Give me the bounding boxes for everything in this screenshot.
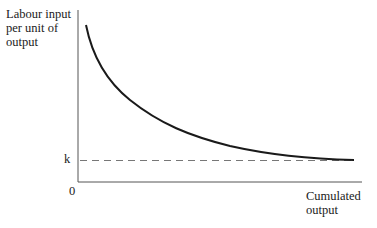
y-axis-label-line: per unit of	[6, 21, 86, 35]
x-axis-label-line: Cumulated	[306, 189, 376, 203]
learning-curve	[86, 25, 354, 160]
x-axis-label-line: output	[306, 203, 376, 217]
origin-label: 0	[69, 184, 75, 198]
y-axis-label-line: output	[6, 35, 86, 49]
k-tick-label: k	[64, 152, 70, 166]
y-axis-label-line: Labour input	[6, 7, 86, 21]
y-axis-label: Labour input per unit of output	[6, 7, 86, 49]
x-axis-label: Cumulated output	[306, 189, 376, 217]
